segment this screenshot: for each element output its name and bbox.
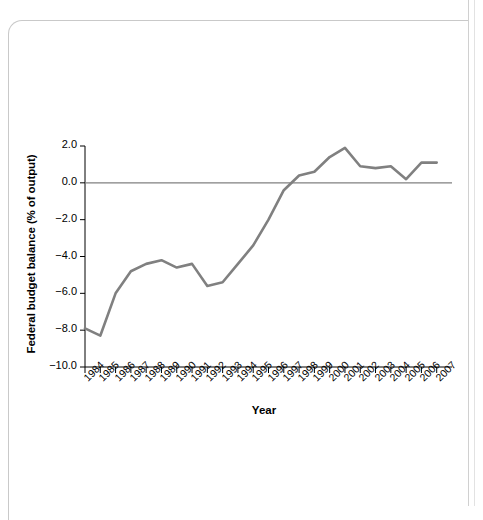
y-tick-label: 2.0 xyxy=(33,138,77,150)
y-axis-ticks xyxy=(80,146,85,367)
y-tick-label: −2.0 xyxy=(33,212,77,224)
series-line-budget-balance xyxy=(85,148,437,336)
x-axis-title: Year xyxy=(0,404,483,416)
y-tick-label: −4.0 xyxy=(33,249,77,261)
y-tick-label: −8.0 xyxy=(33,322,77,334)
y-tick-label: 0.0 xyxy=(33,175,77,187)
y-tick-label: −6.0 xyxy=(33,285,77,297)
y-tick-label: −10.0 xyxy=(33,359,77,371)
x-axis-title-text: Year xyxy=(252,404,276,416)
